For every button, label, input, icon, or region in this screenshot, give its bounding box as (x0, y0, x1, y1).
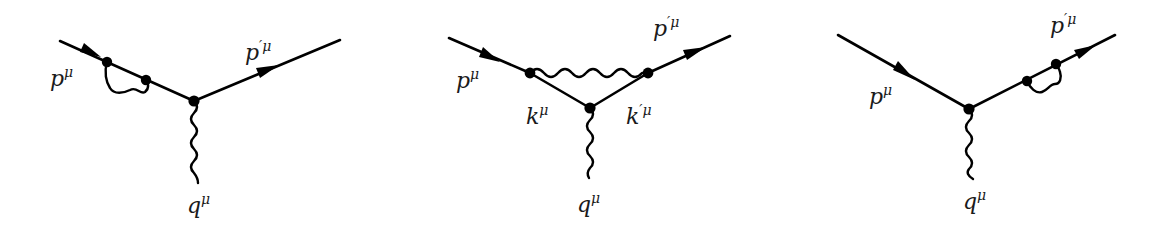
label-photon-momentum: qμ (577, 190, 600, 217)
incoming-arrow-icon (893, 61, 915, 80)
vertex-dot (963, 103, 974, 114)
label-incoming-momentum: pμ (869, 82, 892, 109)
internal-photon-line (530, 69, 648, 77)
label-outgoing-momentum: p′μ (1050, 11, 1076, 38)
incoming-arrow-icon (479, 47, 500, 62)
vertex-dot (1051, 59, 1061, 69)
diagram-middle-vertex-correction: pμ kμ k′μ p′μ qμ (449, 14, 730, 217)
label-outgoing-momentum: p′μ (653, 14, 679, 41)
vertex-dot (525, 68, 536, 79)
external-photon-line (191, 101, 198, 183)
vertex-dot (102, 57, 112, 67)
diagram-right-outgoing-self-energy: pμ p′μ qμ (838, 11, 1115, 214)
vertex-dot (584, 102, 595, 113)
label-outgoing-momentum: p′μ (245, 38, 271, 65)
vertex-dot (643, 68, 654, 79)
outgoing-arrow-icon (1074, 45, 1096, 59)
vertex-dot (1022, 76, 1032, 86)
label-incoming-momentum: pμ (456, 66, 479, 93)
outgoing-arrow-icon (256, 65, 279, 78)
label-incoming-momentum: pμ (50, 64, 73, 91)
label-internal-right-momentum: k′μ (626, 102, 652, 129)
vertex-dot (188, 95, 199, 106)
feynman-diagrams-figure: pμ p′μ qμ pμ kμ k′μ p′μ (0, 0, 1166, 233)
vertex-dot (141, 75, 151, 85)
diagram-left-incoming-self-energy: pμ p′μ qμ (50, 38, 340, 218)
external-photon-line (966, 109, 973, 179)
outgoing-arrow-icon (683, 47, 706, 60)
label-internal-left-momentum: kμ (526, 102, 548, 129)
external-photon-line (587, 108, 593, 178)
label-photon-momentum: qμ (963, 187, 986, 214)
label-photon-momentum: qμ (187, 191, 210, 218)
